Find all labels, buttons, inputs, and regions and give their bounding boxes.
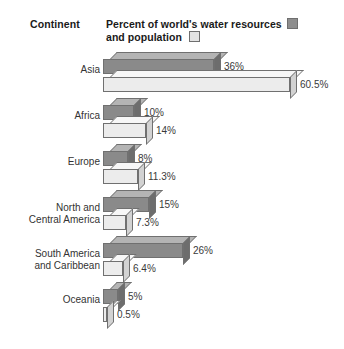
continent-column-header: Continent: [30, 18, 80, 30]
chart-row: North and Central America15%7.3%: [0, 190, 344, 236]
bar-front-face: [103, 261, 123, 276]
chart-row: Oceania5%0.5%: [0, 282, 344, 328]
bar-top-face: [110, 70, 304, 77]
chart-row: Africa10%14%: [0, 98, 344, 144]
bar-side-face: [290, 70, 297, 99]
water-resources-population-chart: Continent Percent of world's water resou…: [0, 0, 344, 349]
value-label-water-resources: 26%: [193, 245, 213, 256]
legend-swatch-water-resources: [287, 18, 298, 29]
bar-side-face: [149, 190, 156, 219]
value-label-population: 60.5%: [300, 79, 328, 90]
bar-side-face: [146, 116, 153, 145]
bar-side-face: [126, 208, 133, 237]
bar-front-face: [103, 77, 290, 92]
category-label: Asia: [0, 64, 100, 76]
value-label-water-resources: 5%: [128, 291, 142, 302]
bar-front-face: [103, 169, 138, 184]
value-label-population: 6.4%: [133, 263, 156, 274]
bar-side-face: [123, 254, 130, 283]
category-label: Africa: [0, 110, 100, 122]
bar-front-face: [103, 307, 107, 322]
chart-row: South America and Caribbean26%6.4%: [0, 236, 344, 282]
chart-rows: Asia36%60.5%Africa10%14%Europe8%11.3%Nor…: [0, 52, 344, 328]
category-label: Europe: [0, 156, 100, 168]
category-label: Oceania: [0, 294, 100, 306]
legend-label-water-resources: Percent of world's water resources: [106, 18, 282, 30]
value-label-population: 11.3%: [148, 171, 176, 182]
bar-top-face: [110, 208, 140, 215]
category-label: North and Central America: [0, 202, 100, 225]
bar-front-face: [103, 215, 126, 230]
bar-top-face: [110, 144, 142, 151]
value-label-population: 14%: [156, 125, 176, 136]
bar-side-face: [138, 162, 145, 191]
bar-side-face: [107, 300, 114, 329]
category-label: South America and Caribbean: [0, 248, 100, 271]
value-label-population: 7.3%: [136, 217, 159, 228]
bar-front-face: [103, 123, 146, 138]
bar-side-face: [118, 282, 125, 311]
legend-entry-population: and population: [106, 31, 306, 44]
chart-row: Asia36%60.5%: [0, 52, 344, 98]
value-label-population: 0.5%: [117, 309, 140, 320]
legend-entry-water-resources: Percent of world's water resources: [106, 18, 306, 31]
chart-row: Europe8%11.3%: [0, 144, 344, 190]
bar-side-face: [183, 236, 190, 265]
legend-label-population: and population: [106, 31, 182, 43]
bar-top-face: [110, 52, 228, 59]
chart-legend: Percent of world's water resources and p…: [106, 18, 306, 44]
legend-swatch-population: [189, 31, 200, 42]
bar-top-face: [110, 162, 152, 169]
bar-top-face: [110, 98, 148, 105]
value-label-water-resources: 15%: [159, 199, 179, 210]
